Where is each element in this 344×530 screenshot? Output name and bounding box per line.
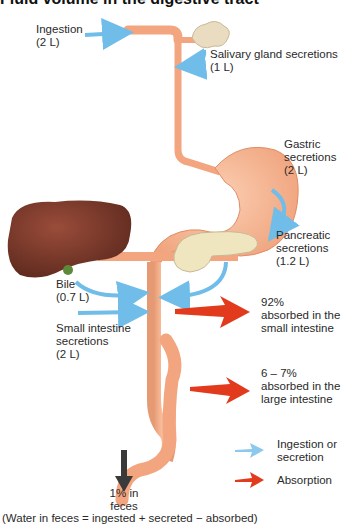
large-intestine-absorption-arrow: [190, 377, 250, 404]
salivary-arrow: [186, 50, 204, 66]
legend-secretion-label: Ingestion orsecretion: [277, 438, 337, 464]
ingestion-arrow: [85, 33, 122, 35]
small-intestine-secretion-arrow: [78, 312, 138, 313]
gallbladder: [63, 265, 73, 275]
small-intestine-absorption-label: 92%absorbed in thesmall intestine: [261, 296, 340, 335]
absorption-arrow-icon: [235, 472, 264, 488]
legend-absorption-label: Absorption: [277, 474, 332, 487]
gastric-label: Gastricsecretions(2 L): [284, 138, 336, 177]
ingestion-label: Ingestion(2 L): [36, 23, 83, 49]
bile-label: Bile(0.7 L): [56, 278, 89, 304]
secretion-arrow-icon: [235, 443, 264, 458]
large-intestine-absorption-label: 6 – 7%absorbed in thelarge intestine: [261, 367, 340, 406]
salivary-label: Salivary gland secretions(1 L): [210, 48, 338, 74]
equation-label: (Water in feces = ingested + secreted − …: [2, 512, 258, 525]
small-intestine-absorption-arrow: [175, 296, 250, 328]
pancreas: [174, 232, 258, 272]
salivary-gland: [192, 21, 229, 47]
feces-label: 1% infeces: [100, 487, 148, 513]
mouth-esophagus: [128, 30, 220, 172]
small-intestine-secretions-label: Small intestinesecretions(2 L): [56, 322, 131, 361]
pancreatic-label: Pancreaticsecretions(1.2 L): [276, 229, 330, 268]
